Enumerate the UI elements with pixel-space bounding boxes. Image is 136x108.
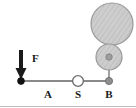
small-hatched-disk bbox=[96, 44, 122, 70]
force-arrow-icon bbox=[16, 50, 27, 80]
diagram-canvas: F A S B bbox=[0, 0, 136, 108]
rod-left-end-node bbox=[18, 78, 25, 85]
label-force-f: F bbox=[32, 52, 39, 64]
label-segment-a: A bbox=[44, 88, 52, 100]
small-disk-hub bbox=[106, 54, 112, 60]
large-hatched-disk bbox=[91, 3, 133, 45]
label-pivot-s: S bbox=[75, 88, 81, 100]
mechanics-diagram-figure: F A S B bbox=[0, 0, 136, 108]
pivot-joint-node bbox=[73, 76, 84, 87]
label-point-b: B bbox=[105, 88, 113, 100]
rod-end-b-node bbox=[105, 77, 112, 84]
